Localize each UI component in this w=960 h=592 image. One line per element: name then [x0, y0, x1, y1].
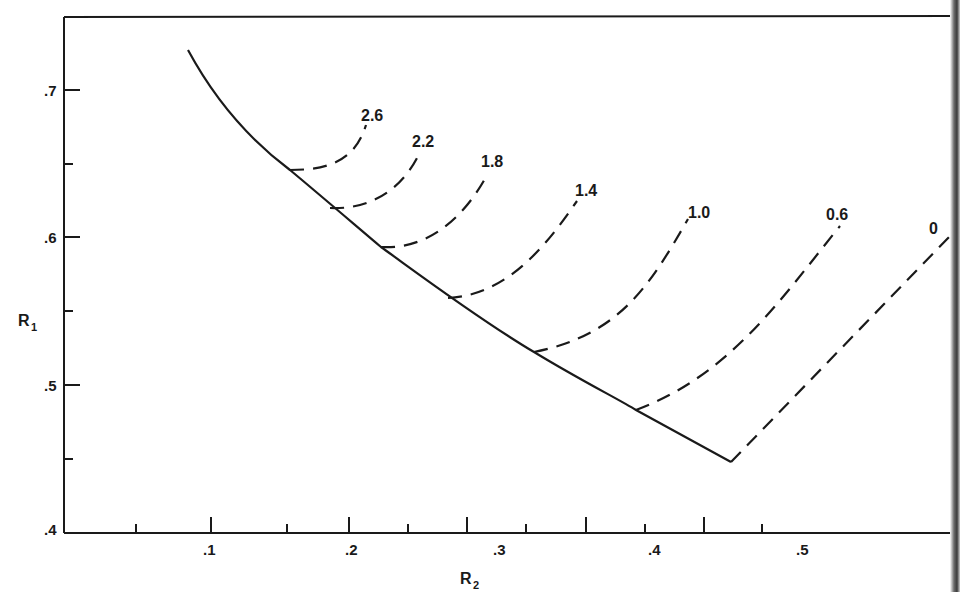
- curve-label: 2.6: [361, 107, 383, 124]
- curve-label: 1.4: [575, 182, 597, 199]
- chart: .7 .6 .5 .4 .1 .2 .3 .4 .5 R 1 R 2 2.6 2…: [0, 0, 960, 592]
- curve-label: 0.6: [826, 206, 848, 223]
- curve-label: 1.0: [688, 204, 710, 221]
- axes: [64, 16, 952, 533]
- x-tick-label: .2: [345, 541, 358, 558]
- x-ticks: [136, 517, 762, 533]
- curve-2.6: [290, 125, 366, 170]
- curve-1.8: [381, 177, 486, 247]
- svg-text:2: 2: [473, 579, 479, 591]
- y-tick-label: .5: [44, 377, 57, 394]
- svg-text:R: R: [460, 570, 472, 587]
- x-tick-label: .5: [796, 541, 809, 558]
- curve-label: 0: [929, 220, 938, 237]
- x-tick-label: .4: [648, 541, 661, 558]
- envelope-curve: [188, 50, 731, 462]
- y-ticks: [64, 90, 80, 459]
- curve-label: 1.8: [481, 153, 503, 170]
- x-tick-label: .1: [203, 541, 216, 558]
- curve-label: 2.2: [412, 133, 434, 150]
- svg-text:1: 1: [31, 321, 37, 333]
- x-tick-label: .3: [493, 541, 506, 558]
- curve-2.2: [330, 152, 420, 208]
- svg-text:R: R: [18, 312, 30, 329]
- curve-1.4: [448, 201, 577, 298]
- x-axis-label: R 2: [460, 570, 479, 591]
- y-axis-label: R 1: [18, 312, 37, 333]
- y-tick-label: .4: [44, 521, 57, 538]
- y-tick-label: .7: [44, 82, 57, 99]
- curve-1.0: [534, 219, 688, 352]
- top-border: [64, 16, 952, 17]
- scan-edge-shadow: [950, 0, 960, 592]
- curve-0: [731, 234, 952, 462]
- dashed-curves: [290, 125, 952, 462]
- y-tick-label: .6: [44, 229, 57, 246]
